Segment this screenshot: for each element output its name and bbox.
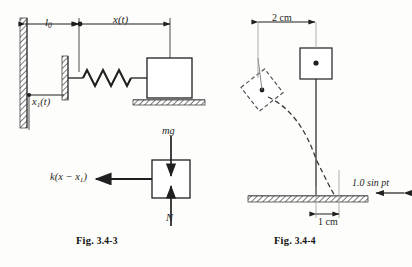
label-displacement-xt: x(t): [113, 14, 128, 25]
figure-page: l0 x(t) x1(t) mg N k(x − x1) 2 cm 1 cm 1…: [0, 0, 412, 267]
pendulum-bob-upright: [300, 48, 332, 79]
dimension-l0: [25, 18, 79, 72]
dimension-1cm: [316, 170, 339, 218]
label-weight-mg: mg: [162, 126, 175, 137]
spring-coil: [68, 70, 147, 86]
movable-support: [62, 56, 68, 100]
label-spring-force: k(x − x1): [50, 172, 87, 184]
pendulum-bob-displaced: [241, 58, 283, 111]
label-2cm: 2 cm: [272, 13, 292, 23]
free-body-diagram: [96, 136, 190, 226]
ground-surface: [133, 100, 205, 105]
label-support-motion: x1(t): [32, 97, 50, 109]
label-1cm: 1 cm: [318, 217, 338, 227]
swing-arc: [268, 97, 336, 198]
label-normal-force: N: [166, 213, 173, 224]
pendulum-ground: [248, 196, 368, 202]
fixed-wall: [20, 18, 27, 128]
caption-fig-3-4-4: Fig. 3.4-4: [274, 235, 316, 246]
label-forcing-function: 1.0 sin pt: [352, 178, 389, 188]
mass-block: [147, 58, 192, 98]
caption-fig-3-4-3: Fig. 3.4-3: [76, 235, 118, 246]
diagram-canvas: [0, 0, 412, 267]
label-natural-length: l0: [45, 17, 52, 30]
